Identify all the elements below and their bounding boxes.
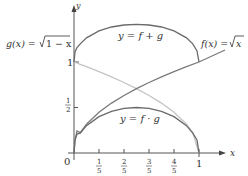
svg-text:5: 5 [122,167,126,175]
svg-text:5: 5 [97,167,101,175]
x-axis-label: x [230,148,235,158]
x-axis-arrow-icon [219,151,226,156]
x-tick-1-5-label: 1 5 [96,158,102,175]
function-plot: 0 y x 1 1 1 2 1 5 2 5 3 5 4 5 g(x) = 1 −… [0,0,248,176]
svg-text:1: 1 [66,97,70,105]
svg-text:3: 3 [147,158,151,166]
axes [68,5,226,160]
svg-text:2: 2 [66,106,70,114]
svg-text:4: 4 [172,158,177,166]
svg-text:f(x) =: f(x) = [200,38,228,49]
g-function-label: g(x) = 1 − x [6,36,72,49]
x-tick-4-5-label: 4 5 [171,158,177,175]
y-ticks [74,62,79,108]
f-curve [74,50,225,153]
svg-text:1 − x: 1 − x [46,38,72,49]
f-function-label: f(x) = x [200,36,244,49]
sum-curve-label: y = f + g [117,30,163,41]
x-tick-1-label: 1 [196,158,202,169]
y-tick-1-label: 1 [67,57,73,68]
y-tick-half-label: 1 2 [65,97,71,114]
y-axis-label: y [75,1,81,10]
svg-text:5: 5 [172,167,176,175]
svg-text:g(x) =: g(x) = [6,38,36,49]
product-curve-label: y = f · g [119,113,160,124]
svg-text:1: 1 [97,158,101,166]
x-tick-3-5-label: 3 5 [146,158,152,175]
svg-text:5: 5 [147,167,151,175]
svg-text:2: 2 [122,158,126,166]
svg-text:x: x [236,38,242,49]
origin-label: 0 [64,156,70,167]
x-tick-2-5-label: 2 5 [121,158,127,175]
